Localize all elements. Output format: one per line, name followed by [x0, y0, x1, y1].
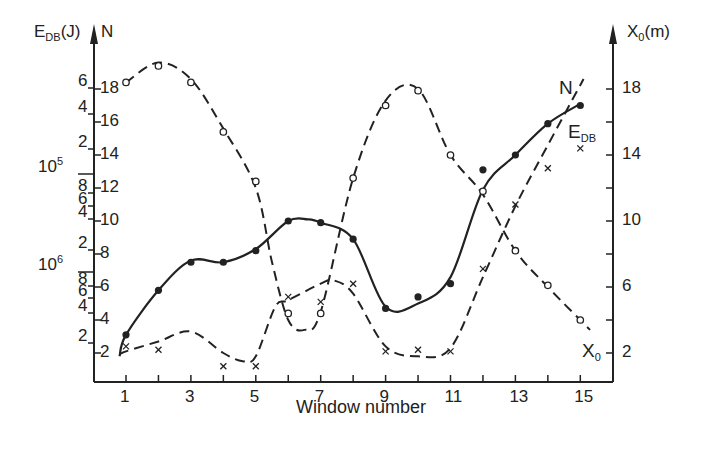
left-n-tick-label: 16: [100, 111, 119, 131]
left-log-tick-label: 2: [78, 326, 87, 346]
edb-point-marker: [512, 151, 519, 158]
edb-curve: [120, 104, 581, 356]
n-cross-marker: [253, 363, 259, 369]
edb-point-marker: [479, 166, 486, 173]
x-tick-label: 3: [185, 387, 194, 407]
x0-point-marker: [447, 152, 453, 158]
right-tick-label: 18: [622, 78, 641, 98]
x0-point-marker: [155, 63, 161, 69]
left-n-tick-label: 8: [100, 243, 109, 263]
left-axis-n-title: N: [101, 22, 113, 42]
x0-label-main: X: [582, 340, 595, 361]
x0-point-marker: [253, 178, 259, 184]
data-markers: [122, 63, 584, 370]
x0-point-marker: [382, 102, 388, 108]
left-title-unit: (J): [61, 22, 81, 41]
right-axis-ticks: [606, 89, 613, 353]
right-title-unit: (m): [644, 22, 669, 41]
edb-point-marker: [382, 305, 389, 312]
edb-point-marker: [317, 219, 324, 226]
edb-label-main: E: [568, 121, 581, 142]
edb-point-marker: [187, 259, 194, 266]
n-cross-marker: [123, 343, 129, 349]
edb-point-marker: [285, 217, 292, 224]
right-tick-label: 10: [622, 210, 641, 230]
x0-point-marker: [512, 248, 518, 254]
left-n-tick-label: 4: [100, 309, 109, 329]
left-title-sub: DB: [45, 31, 60, 43]
n-cross-marker: [577, 145, 583, 151]
right-axis-title: X0(m): [627, 22, 670, 43]
left-n-tick-label: 14: [100, 144, 119, 164]
right-title-main: X: [627, 22, 638, 41]
n-cross-marker: [220, 363, 226, 369]
left-decade-label: 105: [38, 155, 63, 177]
n-curve-label: N: [559, 77, 573, 99]
x-tick-label: 11: [445, 387, 463, 407]
x-tick-label: 15: [574, 387, 593, 407]
n-cross-marker: [415, 347, 421, 353]
n-cross-marker: [545, 165, 551, 171]
right-tick-label: 14: [622, 144, 641, 164]
left-n-tick-label: 10: [100, 210, 119, 230]
edb-point-marker: [155, 287, 162, 294]
left-n-tick-label: 6: [100, 276, 109, 296]
left-log-tick-label: 2: [78, 233, 87, 253]
left-log-tick-label: 4: [78, 202, 87, 222]
left-title-main: E: [34, 22, 45, 41]
right-axis-arrow-icon: [609, 24, 617, 44]
x-tick-label: 13: [509, 387, 528, 407]
left-n-tick-label: 2: [100, 342, 109, 362]
left-log-tick-label: 4: [78, 97, 87, 117]
axes: [94, 30, 613, 382]
x0-point-marker: [188, 79, 194, 85]
edb-curve-label: EDB: [568, 121, 596, 144]
x0-point-marker: [350, 175, 356, 181]
x0-curve-label: X0: [582, 340, 601, 363]
edb-point-marker: [544, 120, 551, 127]
x0-point-marker: [415, 87, 421, 93]
n-cross-marker: [155, 347, 161, 353]
edb-point-marker: [577, 102, 584, 109]
x0-point-marker: [318, 310, 324, 316]
left-n-tick-label: 18: [100, 78, 119, 98]
edb-label-sub: DB: [581, 132, 596, 144]
x-axis-ticks: [126, 375, 580, 382]
left-log-tick-label: 6: [78, 71, 87, 91]
edb-point-marker: [447, 280, 454, 287]
left-axis-title: EDB(J): [34, 22, 80, 43]
n-cross-marker: [383, 348, 389, 354]
left-log-tick-label: 2: [78, 132, 87, 152]
x0-point-marker: [123, 79, 129, 85]
left-log-tick-label: 4: [78, 296, 87, 316]
edb-point-marker: [220, 259, 227, 266]
left-decade-label: 106: [38, 253, 63, 275]
left-axis-arrow-icon: [90, 24, 98, 44]
n-curve: [120, 79, 584, 362]
edb-point-marker: [122, 331, 129, 338]
x-tick-label: 5: [250, 387, 259, 407]
x0-point-marker: [285, 310, 291, 316]
right-tick-label: 2: [622, 342, 631, 362]
edb-point-marker: [414, 293, 421, 300]
edb-point-marker: [252, 247, 259, 254]
x-tick-label: 1: [120, 387, 129, 407]
n-cross-marker: [480, 266, 486, 272]
right-tick-label: 6: [622, 276, 631, 296]
x0-point-marker: [577, 317, 583, 323]
edb-point-marker: [350, 236, 357, 243]
x-axis-title: Window number: [296, 397, 426, 418]
x0-point-marker: [220, 129, 226, 135]
n-cross-marker: [350, 281, 356, 287]
left-n-tick-label: 12: [100, 177, 119, 197]
n-cross-marker: [285, 294, 291, 300]
n-cross-marker: [318, 299, 324, 305]
x0-label-sub: 0: [595, 351, 601, 363]
x0-point-marker: [545, 282, 551, 288]
x0-point-marker: [480, 188, 486, 194]
